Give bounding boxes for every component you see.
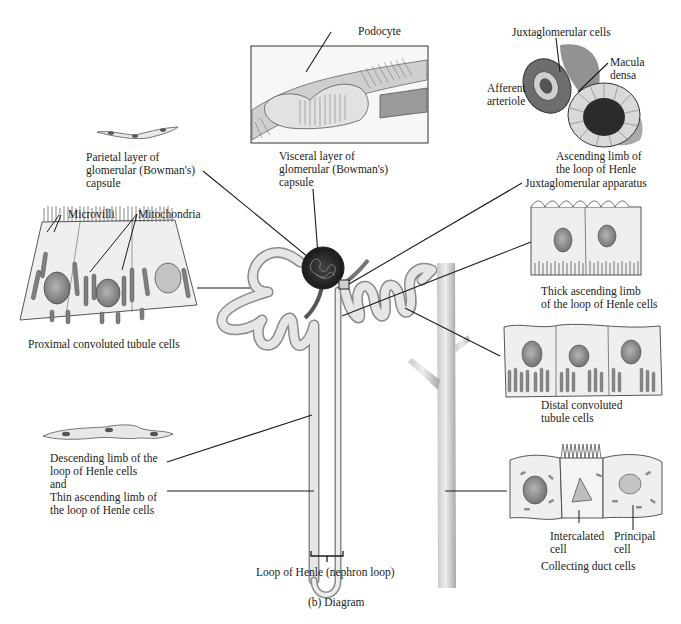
label-loop-of-henle: Loop of Henle (nephron loop) [256, 566, 395, 579]
label-line: Intercalated [550, 530, 604, 543]
label-juxtaglomerular-apparatus: Juxtaglomerular apparatus [525, 177, 647, 190]
label-distal-cells: Distal convoluted tubule cells [541, 399, 622, 425]
label-line: densa [610, 69, 644, 82]
nephron-tubule [222, 252, 432, 595]
label-line: arteriole [487, 95, 526, 108]
label-proximal-cells: Proximal convoluted tubule cells [28, 338, 180, 351]
label-line: the loop of Henle cells [50, 504, 158, 517]
label-juxtaglomerular-cells: Juxtaglomerular cells [512, 26, 611, 39]
podocyte-inset [251, 32, 428, 143]
label-podocyte: Podocyte [358, 25, 401, 38]
label-line: loop of Henle cells [50, 465, 158, 478]
label-line: of the loop of Henle cells [541, 298, 658, 311]
label-collecting-duct-cells: Collecting duct cells [541, 560, 636, 573]
label-line: Principal [614, 530, 656, 543]
label-line: Parietal layer of [86, 151, 195, 164]
label-line: Thin ascending limb of [50, 491, 158, 504]
label-descending-thin-limb: Descending limb of the loop of Henle cel… [50, 452, 158, 517]
label-line: capsule [86, 177, 195, 190]
label-mitochondria: Mitochondria [138, 208, 201, 221]
label-line: the loop of Henle [556, 163, 642, 176]
label-line: cell [614, 543, 656, 556]
label-line: glomerular (Bowman's) [86, 164, 195, 177]
label-microvilli: Microvilli [68, 208, 115, 221]
label-principal-cell: Principal cell [614, 530, 656, 556]
label-ascending-limb: Ascending limb of the loop of Henle [556, 150, 642, 176]
parietal-cells-illustration [97, 127, 178, 139]
label-thick-ascending: Thick ascending limb of the loop of Henl… [541, 285, 658, 311]
label-intercalated-cell: Intercalated cell [550, 530, 604, 556]
label-line: Thick ascending limb [541, 285, 658, 298]
label-line: Descending limb of the [50, 452, 158, 465]
label-line: and [50, 478, 158, 491]
thick-ascending-cells-illustration [531, 201, 641, 275]
label-line: Macula [610, 56, 644, 69]
label-line: capsule [279, 176, 388, 189]
juxtaglomerular-inset [514, 38, 642, 147]
label-line: Visceral layer of [279, 150, 388, 163]
label-line: tubule cells [541, 412, 622, 425]
label-macula-densa: Macula densa [610, 56, 644, 82]
label-line: cell [550, 543, 604, 556]
label-line: glomerular (Bowman's) [279, 163, 388, 176]
label-afferent-arteriole: Afferent arteriole [487, 82, 526, 108]
label-parietal-layer: Parietal layer of glomerular (Bowman's) … [86, 151, 195, 190]
label-line: Distal convoluted [541, 399, 622, 412]
figure-caption: (b) Diagram [308, 596, 365, 609]
label-visceral-layer: Visceral layer of glomerular (Bowman's) … [279, 150, 388, 189]
label-line: Afferent [487, 82, 526, 95]
collecting-duct [408, 263, 470, 588]
distal-cells-illustration [504, 324, 662, 397]
thin-limb-cells-illustration [43, 425, 173, 439]
label-line: Ascending limb of [556, 150, 642, 163]
collecting-duct-cells-illustration [510, 444, 662, 530]
